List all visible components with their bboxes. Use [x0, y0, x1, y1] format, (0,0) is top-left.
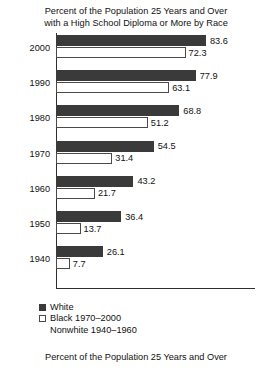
year-axis-label: 1990 — [30, 78, 50, 89]
bar-black-nonwhite: 63.1 — [56, 82, 169, 93]
bar-white: 26.1 — [56, 246, 103, 257]
bar-value-label: 31.4 — [115, 153, 133, 163]
bar-value-label: 13.7 — [84, 224, 102, 234]
legend-swatch-black-icon — [39, 315, 46, 322]
bar-value-label: 63.1 — [172, 83, 190, 93]
bar-group: 195036.413.7 — [56, 211, 255, 235]
bar-value-label: 77.9 — [200, 71, 218, 81]
chart-legend: White Black 1970–2000 Nonwhite 1940–1960 — [39, 302, 137, 336]
year-axis-label: 1960 — [30, 184, 50, 195]
bar-white: 54.5 — [56, 141, 154, 152]
legend-label-black: Black 1970–2000 — [50, 313, 121, 324]
bar-group: 199077.963.1 — [56, 70, 255, 94]
bar-group: 197054.531.4 — [56, 141, 255, 165]
bar-black-nonwhite: 13.7 — [56, 223, 81, 234]
bar-white: 68.8 — [56, 105, 179, 116]
bar-value-label: 7.7 — [73, 259, 86, 269]
plot-area: 200083.672.3199077.963.1198068.851.21970… — [56, 33, 255, 289]
chart-title: Percent of the Population 25 Years and O… — [0, 5, 272, 29]
year-axis-label: 1970 — [30, 149, 50, 160]
bar-group: 194026.17.7 — [56, 246, 255, 270]
bar-value-label: 43.2 — [137, 176, 155, 186]
bar-value-label: 21.7 — [98, 188, 116, 198]
bar-value-label: 36.4 — [125, 212, 143, 222]
bar-black-nonwhite: 21.7 — [56, 188, 95, 199]
bar-white: 43.2 — [56, 176, 133, 187]
bar-value-label: 26.1 — [107, 247, 125, 257]
bar-black-nonwhite: 72.3 — [56, 47, 186, 58]
bar-black-nonwhite: 7.7 — [56, 258, 70, 269]
bar-white: 83.6 — [56, 35, 206, 46]
bar-value-label: 83.6 — [210, 36, 228, 46]
chart-footer-caption: Percent of the Population 25 Years and O… — [0, 352, 272, 363]
bar-value-label: 68.8 — [183, 106, 201, 116]
x-axis-line — [56, 288, 255, 289]
legend-item-white: White — [39, 302, 137, 313]
chart-title-line-2: with a High School Diploma or More by Ra… — [0, 17, 272, 29]
legend-label-nonwhite: Nonwhite 1940–1960 — [39, 325, 137, 336]
bar-value-label: 54.5 — [158, 141, 176, 151]
legend-label-white: White — [50, 302, 74, 313]
year-axis-label: 1980 — [30, 113, 50, 124]
bar-value-label: 51.2 — [151, 118, 169, 128]
chart-title-line-1: Percent of the Population 25 Years and O… — [0, 5, 272, 17]
year-axis-label: 1950 — [30, 219, 50, 230]
bar-group: 196043.221.7 — [56, 176, 255, 200]
year-axis-label: 1940 — [30, 254, 50, 265]
bar-group: 200083.672.3 — [56, 35, 255, 59]
bar-value-label: 72.3 — [189, 48, 207, 58]
bar-white: 36.4 — [56, 211, 121, 222]
legend-item-black: Black 1970–2000 — [39, 313, 137, 324]
legend-swatch-white-icon — [39, 304, 46, 311]
chart-figure: Percent of the Population 25 Years and O… — [0, 0, 272, 370]
bar-group: 198068.851.2 — [56, 105, 255, 129]
bar-white: 77.9 — [56, 70, 196, 81]
year-axis-label: 2000 — [30, 43, 50, 54]
bar-black-nonwhite: 31.4 — [56, 153, 112, 164]
bar-black-nonwhite: 51.2 — [56, 117, 148, 128]
